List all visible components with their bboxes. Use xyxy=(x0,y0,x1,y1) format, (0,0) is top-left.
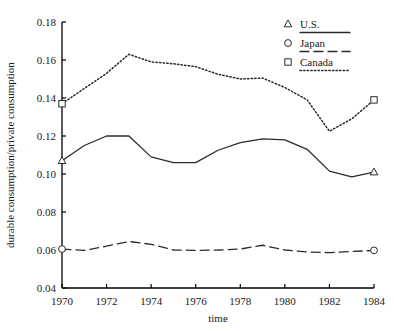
y-tick-label: 0.14 xyxy=(37,92,57,104)
y-tick-label: 0.18 xyxy=(37,16,57,28)
x-tick-label: 1974 xyxy=(140,295,163,307)
y-tick-label: 0.06 xyxy=(37,244,57,256)
x-tick-label: 1982 xyxy=(318,295,340,307)
y-tick-label: 0.16 xyxy=(37,54,57,66)
marker-us-start xyxy=(58,157,66,164)
chart-canvas: 0.040.060.080.100.120.140.160.1819701972… xyxy=(0,0,394,331)
y-axis-title: durable consumption/private consumption xyxy=(4,62,16,248)
marker-us-end xyxy=(370,168,378,175)
legend-label-us: U.S. xyxy=(300,18,320,30)
legend-label-canada: Canada xyxy=(300,56,333,68)
x-tick-label: 1976 xyxy=(185,295,208,307)
y-tick-label: 0.10 xyxy=(37,168,57,180)
y-tick-label: 0.12 xyxy=(37,130,56,142)
y-tick-label: 0.08 xyxy=(37,206,57,218)
x-tick-label: 1970 xyxy=(51,295,74,307)
series-line-us xyxy=(62,136,374,177)
x-axis-title: time xyxy=(208,312,228,324)
y-tick-label: 0.04 xyxy=(37,282,57,294)
legend-label-japan: Japan xyxy=(300,37,326,49)
legend-marker-canada xyxy=(285,59,291,65)
x-tick-label: 1978 xyxy=(229,295,252,307)
series-line-japan xyxy=(62,241,374,252)
marker-canada-end xyxy=(371,97,377,103)
x-tick-label: 1980 xyxy=(274,295,297,307)
marker-canada-start xyxy=(59,101,65,107)
line-chart: 0.040.060.080.100.120.140.160.1819701972… xyxy=(0,0,394,331)
legend-marker-us xyxy=(284,20,292,27)
marker-japan-start xyxy=(59,246,66,253)
legend-marker-japan xyxy=(285,40,292,47)
x-tick-label: 1972 xyxy=(96,295,118,307)
x-tick-label: 1984 xyxy=(363,295,386,307)
marker-japan-end xyxy=(371,247,378,254)
